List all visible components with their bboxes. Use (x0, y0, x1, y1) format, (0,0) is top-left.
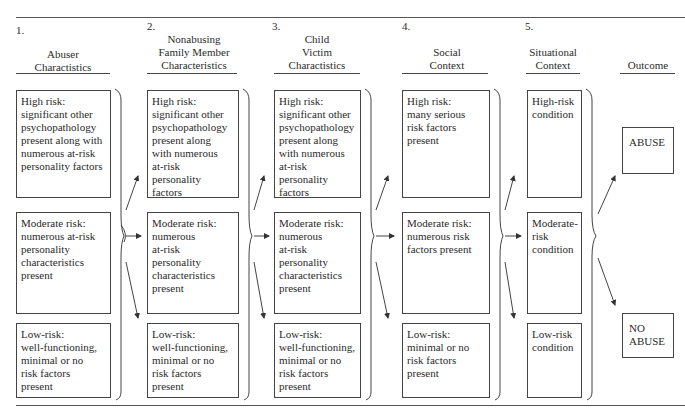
bracket-brace-2 (243, 89, 252, 400)
connector-lines (0, 0, 685, 414)
bracket-brace-4 (494, 89, 503, 400)
bracket-brace-3 (365, 89, 374, 400)
bracket-brace-5 (586, 89, 596, 400)
bracket-brace-1 (115, 89, 124, 400)
